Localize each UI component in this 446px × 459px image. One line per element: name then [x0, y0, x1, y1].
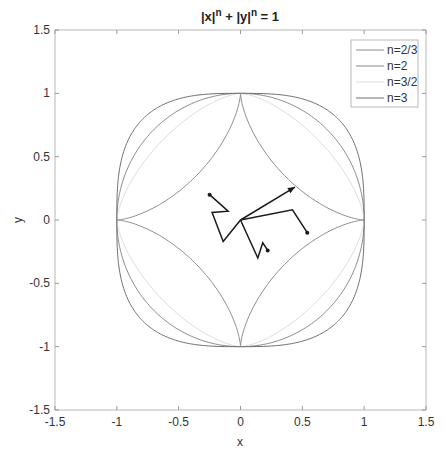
- x-tick-label: 0.5: [294, 415, 311, 429]
- title-part: |x|: [201, 9, 216, 24]
- title-part: = 1: [257, 9, 279, 24]
- legend-label: n=3/2: [387, 75, 418, 89]
- x-tick-label: 1: [361, 415, 368, 429]
- walk-path: [210, 195, 241, 242]
- chart: |x|n + |y|n = 1 -1.5-1-0.500.511.5-1.5-1…: [0, 0, 446, 459]
- y-axis-label: y: [11, 217, 25, 223]
- walk-endpoint: [266, 248, 270, 252]
- legend-label: n=2: [387, 59, 408, 73]
- walk-endpoint: [208, 193, 212, 197]
- y-tick-label: -1: [39, 340, 50, 354]
- legend: n=2/3n=2n=3/2n=3: [351, 40, 418, 107]
- x-tick-label: 1.5: [418, 415, 435, 429]
- y-tick-label: 0: [43, 213, 50, 227]
- walk-endpoint: [305, 231, 309, 235]
- y-tick-label: 1: [43, 86, 50, 100]
- x-tick-label: -1: [111, 415, 122, 429]
- legend-label: n=3: [387, 91, 408, 105]
- plot-area: [117, 93, 364, 346]
- y-tick-label: -0.5: [29, 276, 50, 290]
- title-part: + |y|: [222, 9, 251, 24]
- x-tick-label: -1.5: [45, 415, 66, 429]
- y-tick-label: -1.5: [29, 403, 50, 417]
- walk-path: [241, 220, 268, 258]
- x-axis-label: x: [237, 435, 243, 449]
- y-tick-label: 1.5: [33, 23, 50, 37]
- y-tick-label: 0.5: [33, 150, 50, 164]
- x-tick-label: 0: [237, 415, 244, 429]
- legend-label: n=2/3: [387, 43, 418, 57]
- chart-title: |x|n + |y|n = 1: [201, 7, 279, 24]
- x-tick-label: -0.5: [168, 415, 189, 429]
